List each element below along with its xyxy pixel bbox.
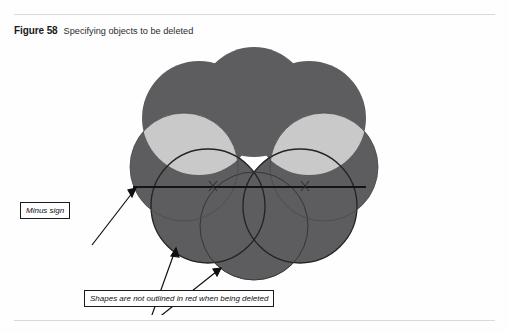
callout-minus-sign: Minus sign [20, 202, 70, 219]
callout-minus-sign-text: Minus sign [26, 206, 64, 215]
leader-minus [92, 188, 136, 245]
figure-artwork [0, 40, 509, 315]
arrowhead-minus [128, 188, 136, 197]
figure-page: Figure 58Specifying objects to be delete… [0, 0, 509, 333]
figure-caption-text: Specifying objects to be deleted [64, 26, 194, 36]
rule-bottom [14, 320, 495, 321]
arrowhead-shapes-right [213, 268, 221, 276]
circle-bottom-center [200, 172, 308, 280]
circle-cluster [92, 47, 378, 315]
figure-number: Figure 58 [14, 25, 58, 36]
figure-caption: Figure 58Specifying objects to be delete… [14, 24, 193, 38]
rule-top [14, 14, 495, 15]
callout-shapes-not-outlined-text: Shapes are not outlined in red when bein… [90, 294, 268, 303]
callout-shapes-not-outlined: Shapes are not outlined in red when bein… [84, 290, 274, 307]
